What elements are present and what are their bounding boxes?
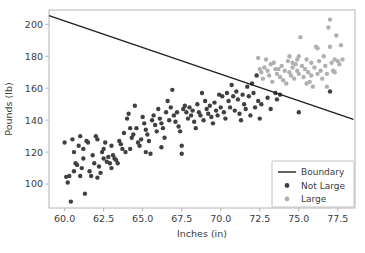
data-point — [145, 132, 149, 136]
data-point — [265, 68, 269, 72]
data-point — [325, 72, 329, 76]
data-point — [95, 137, 99, 141]
data-point — [328, 89, 332, 93]
data-point — [69, 199, 73, 203]
data-point — [133, 104, 137, 108]
data-point — [81, 156, 85, 160]
data-point — [281, 78, 285, 82]
data-point — [212, 100, 216, 104]
data-point — [159, 121, 163, 125]
legend-dot-swatch — [285, 183, 290, 188]
data-point — [214, 108, 218, 112]
data-point — [320, 76, 324, 80]
data-point — [236, 97, 240, 101]
data-point — [190, 108, 194, 112]
data-point — [91, 153, 95, 157]
legend-label: Boundary — [301, 167, 345, 177]
data-point — [170, 88, 174, 92]
scatter-plot: 60.062.565.067.570.072.575.077.510012014… — [0, 0, 365, 253]
x-axis-title: Inches (in) — [177, 228, 227, 239]
data-point — [229, 83, 233, 87]
data-point — [76, 144, 80, 148]
x-tick-label: 77.5 — [327, 213, 348, 224]
data-point — [164, 110, 168, 114]
data-point — [147, 139, 151, 143]
data-point — [259, 70, 263, 74]
data-point — [290, 60, 294, 64]
data-point — [126, 112, 130, 116]
data-point — [139, 137, 143, 141]
data-point — [283, 68, 287, 72]
data-point — [120, 147, 124, 151]
data-point — [276, 67, 280, 71]
data-point — [226, 99, 230, 103]
data-point — [265, 96, 269, 100]
data-point — [237, 112, 241, 116]
data-point — [251, 91, 255, 95]
data-point — [244, 107, 248, 111]
data-point — [333, 70, 337, 74]
data-point — [287, 54, 291, 58]
data-point — [172, 113, 176, 117]
data-point — [140, 115, 144, 119]
data-point — [165, 99, 169, 103]
data-point — [309, 60, 313, 64]
data-point — [148, 152, 152, 156]
data-point — [180, 144, 184, 148]
data-point — [272, 60, 276, 64]
data-point — [318, 68, 322, 72]
data-point — [300, 64, 304, 68]
data-point — [259, 102, 263, 106]
data-point — [195, 102, 199, 106]
data-point — [256, 56, 260, 60]
data-point — [109, 144, 113, 148]
data-point — [337, 62, 341, 66]
y-tick-label: 160 — [25, 83, 43, 94]
data-point — [234, 89, 238, 93]
data-point — [103, 140, 107, 144]
y-tick-label: 180 — [25, 51, 43, 62]
data-point — [304, 57, 308, 61]
data-point — [189, 113, 193, 117]
data-point — [80, 166, 84, 170]
x-tick-label: 65.0 — [132, 213, 153, 224]
data-point — [187, 105, 191, 109]
data-point — [106, 155, 110, 159]
data-point — [158, 116, 162, 120]
data-point — [323, 64, 327, 68]
data-point — [62, 140, 66, 144]
data-point — [279, 64, 283, 68]
data-point — [200, 91, 204, 95]
data-point — [278, 75, 282, 79]
x-tick-label: 62.5 — [93, 213, 114, 224]
data-point — [297, 72, 301, 76]
data-point — [275, 72, 279, 76]
data-point — [298, 35, 302, 39]
data-point — [78, 134, 82, 138]
data-point — [208, 104, 212, 108]
data-point — [95, 175, 99, 179]
data-point — [67, 174, 71, 178]
data-point — [311, 84, 315, 88]
data-point — [220, 94, 224, 98]
data-point — [258, 116, 262, 120]
data-point — [186, 116, 190, 120]
y-tick-label: 200 — [25, 19, 43, 30]
data-point — [122, 131, 126, 135]
data-point — [329, 60, 333, 64]
data-point — [253, 105, 257, 109]
data-point — [334, 33, 338, 37]
x-tick-label: 67.5 — [171, 213, 192, 224]
data-point — [268, 107, 272, 111]
data-point — [119, 142, 123, 146]
data-point — [109, 166, 113, 170]
data-point — [178, 129, 182, 133]
x-tick-label: 75.0 — [288, 213, 309, 224]
data-point — [108, 161, 112, 165]
data-point — [289, 73, 293, 77]
data-point — [183, 104, 187, 108]
data-point — [72, 150, 76, 154]
legend-label: Large — [301, 194, 327, 204]
data-point — [86, 140, 90, 144]
data-point — [211, 121, 215, 125]
